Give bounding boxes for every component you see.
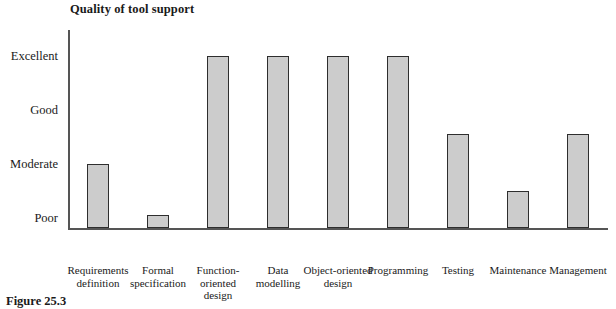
bar	[147, 215, 169, 228]
bar	[387, 56, 409, 228]
bar	[207, 56, 229, 228]
y-axis-tick-poor: Poor	[34, 211, 58, 226]
chart-title: Quality of tool support	[70, 2, 194, 17]
figure-caption: Figure 25.3	[6, 294, 66, 309]
y-axis-tick-moderate: Moderate	[10, 157, 58, 172]
bar	[327, 56, 349, 228]
x-axis-line	[68, 228, 608, 230]
bar	[507, 191, 529, 228]
y-axis-tick-good: Good	[30, 103, 58, 118]
bar	[447, 134, 469, 228]
bar	[267, 56, 289, 228]
y-axis-line	[68, 30, 70, 228]
x-axis-label: Management	[536, 264, 616, 277]
bar	[87, 164, 109, 228]
bar	[567, 134, 589, 228]
plot-area: ExcellentGoodModeratePoor Requirements d…	[68, 30, 608, 228]
y-axis-tick-excellent: Excellent	[11, 49, 58, 64]
